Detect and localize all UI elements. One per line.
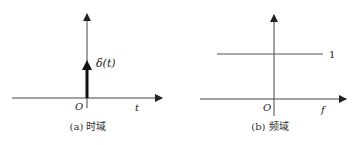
t-axis-label: t xyxy=(135,102,140,113)
caption-b: (b) 频域 xyxy=(251,120,288,132)
time-domain-panel: δ(t) O t (a) 时域 xyxy=(12,14,162,132)
delta-label: δ(t) xyxy=(96,57,116,70)
origin-label-b: O xyxy=(263,102,271,113)
caption-a: (a) 时域 xyxy=(70,120,107,132)
origin-label-a: O xyxy=(75,101,83,112)
frequency-domain-panel: 1 O f (b) 频域 xyxy=(200,15,346,132)
level-label: 1 xyxy=(329,49,335,60)
impulse-arrow-head xyxy=(82,60,92,70)
fourier-pair-diagram: δ(t) O t (a) 时域 1 O f (b) 频域 xyxy=(0,0,356,145)
f-axis-label: f xyxy=(320,104,327,115)
